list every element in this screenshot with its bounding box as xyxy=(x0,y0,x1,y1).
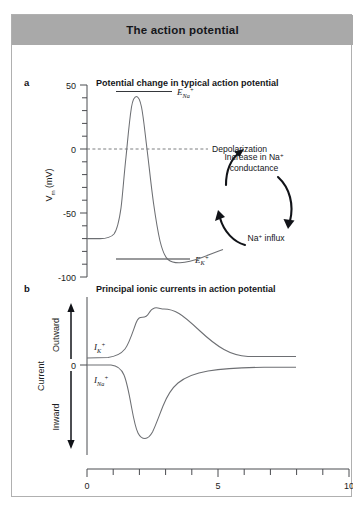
e-na-label: ENa+ xyxy=(176,86,194,98)
svg-text:Outward: Outward xyxy=(51,318,61,352)
svg-text:Vm (mV): Vm (mV) xyxy=(44,168,56,201)
outward-direction-label: Outward xyxy=(51,318,61,352)
panel-a-ytick-label: -50 xyxy=(63,209,76,219)
panel-a-ytick-label: 0 xyxy=(71,145,76,155)
panel-a-group: 50 0 -50 -100 Vm (mV) Depolarization ENa… xyxy=(44,81,267,283)
panel-a-y-title-units: (mV) xyxy=(44,168,54,188)
svg-text:Inward: Inward xyxy=(51,403,61,430)
ik-current-curve xyxy=(87,308,296,358)
figure-title: The action potential xyxy=(126,24,239,36)
panel-b-y-axis-title: Current xyxy=(36,360,46,391)
outward-arrowhead-icon xyxy=(67,303,74,312)
figure-container: The action potential a Potential change … xyxy=(11,14,352,497)
panel-a-ytick-label: 50 xyxy=(66,81,76,91)
na-influx-label: Na+ influx xyxy=(247,232,285,243)
x-tick-label: 10 xyxy=(344,481,353,491)
ik-curve-label: IK+ xyxy=(93,341,105,353)
ina-curve-label: INa+ xyxy=(93,374,108,386)
arrow-to-influx xyxy=(278,177,292,221)
panel-a-ytick-label: -100 xyxy=(58,273,76,283)
panel-b-group: 0 Current Outward Inward xyxy=(36,297,296,455)
panel-a-y-axis-title: Vm (mV) xyxy=(44,168,56,201)
positive-feedback-cycle: Increase in Na+ conductance Na+ influx xyxy=(215,149,295,245)
figure-plot-svg: 50 0 -50 -100 Vm (mV) Depolarization ENa… xyxy=(12,45,353,497)
inward-direction-label: Inward xyxy=(51,403,61,430)
conductance-label-line2: conductance xyxy=(230,163,279,173)
x-tick-label: 0 xyxy=(84,481,89,491)
figure-body: a Potential change in typical action pot… xyxy=(12,45,353,497)
x-tick-label: 5 xyxy=(215,481,220,491)
inward-arrowhead-icon xyxy=(67,440,74,449)
arrow-to-depolarization xyxy=(220,218,245,245)
figure-header: The action potential xyxy=(12,15,353,45)
svg-text:Current: Current xyxy=(36,360,46,391)
panel-b-ytick-label: 0 xyxy=(71,361,76,371)
action-potential-curve xyxy=(87,97,223,263)
x-axis-group: 0 5 10 Time (ms) xyxy=(84,469,353,497)
ina-current-curve xyxy=(87,365,296,439)
arrowhead-to-influx xyxy=(284,219,295,229)
